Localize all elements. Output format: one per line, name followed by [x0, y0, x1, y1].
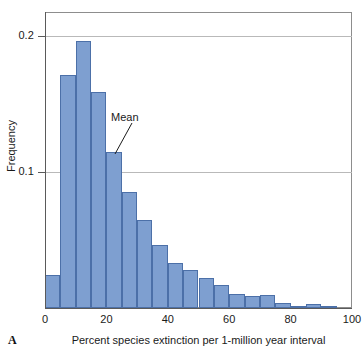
y-tick-mark-0-2 [38, 36, 45, 37]
panel-letter: A [8, 333, 17, 348]
figure-panel-a: 0.2 0.1 Frequency 020406080100 Percent s… [0, 0, 364, 359]
y-tick-label-0-2: 0.2 [0, 29, 34, 41]
x-tick-label-20: 20 [100, 313, 112, 325]
histogram-bar [152, 245, 167, 308]
histogram-bar [229, 294, 244, 308]
gridline-0-2 [45, 36, 352, 37]
histogram-bar [214, 285, 229, 308]
x-tick-label-0: 0 [42, 313, 48, 325]
y-tick-mark-0-1 [38, 172, 45, 173]
histogram-bar [199, 278, 214, 308]
histogram-bar [260, 295, 275, 308]
histogram-bar [245, 296, 260, 308]
histogram-bar [183, 270, 198, 308]
histogram-bar [60, 75, 75, 308]
histogram-bar [76, 41, 91, 308]
histogram-bar [137, 220, 152, 308]
y-axis-title: Frequency [5, 106, 17, 186]
mean-annotation-label: Mean [111, 111, 139, 123]
y-axis-line [45, 12, 46, 309]
x-tick-label-80: 80 [284, 313, 296, 325]
histogram-bar [91, 92, 106, 308]
histogram-bar [106, 152, 121, 308]
x-tick-label-100: 100 [343, 313, 361, 325]
x-tick-label-40: 40 [162, 313, 174, 325]
x-axis-line [45, 308, 352, 309]
histogram-bar [122, 192, 137, 308]
x-axis-title: Percent species extinction per 1-million… [45, 334, 352, 346]
histogram-bar [168, 263, 183, 308]
x-tick-label-60: 60 [223, 313, 235, 325]
histogram-bar [45, 275, 60, 308]
